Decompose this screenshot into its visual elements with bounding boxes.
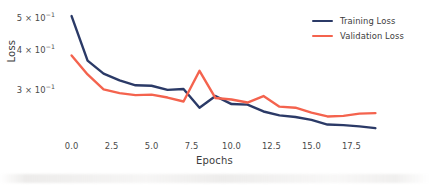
x-tick-label: 7.5 [185, 141, 199, 151]
x-tick-label: 0.0 [65, 141, 79, 151]
chart-legend: Training LossValidation Loss [312, 15, 404, 45]
legend-label: Training Loss [340, 16, 395, 26]
x-axis-title: Epochs [0, 155, 429, 166]
y-tick-label: 5 × 10−1 [17, 13, 55, 23]
loss-curve-figure: Loss 5 × 10−14 × 10−13 × 10−1 0.02.55.07… [0, 0, 429, 194]
y-tick-label: 3 × 10−1 [17, 85, 55, 95]
x-tick-label: 5.0 [145, 141, 159, 151]
legend-item-validation-loss: Validation Loss [312, 30, 404, 42]
legend-label: Validation Loss [340, 31, 404, 41]
x-tick-label: 2.5 [105, 141, 119, 151]
page-scan-artifact [0, 174, 429, 183]
x-tick-label: 10.0 [222, 141, 241, 151]
legend-color-swatch [312, 20, 333, 23]
series-line-validation-loss [72, 55, 376, 116]
x-tick-label: 17.5 [342, 141, 361, 151]
x-tick-label: 12.5 [262, 141, 281, 151]
y-axis-title: Loss [6, 49, 17, 63]
x-tick-label: 15.0 [302, 141, 321, 151]
legend-item-training-loss: Training Loss [312, 15, 404, 27]
y-tick-label: 4 × 10−1 [17, 45, 55, 55]
legend-color-swatch [312, 35, 333, 38]
